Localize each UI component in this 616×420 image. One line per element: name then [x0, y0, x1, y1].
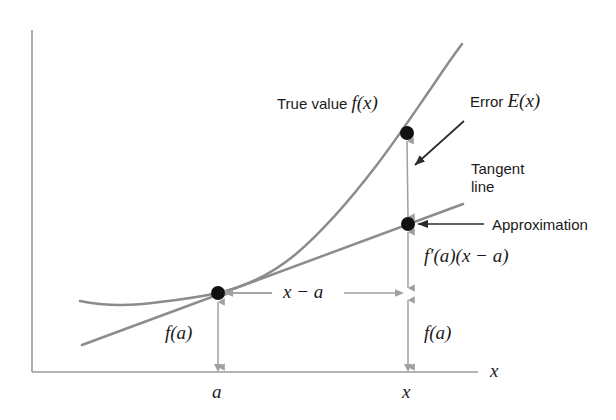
true-value-label: True value f(x)	[277, 92, 378, 114]
error-text: Error	[470, 93, 508, 110]
error-math: E(x)	[508, 90, 541, 111]
tangent-line-label-line2: line	[471, 178, 524, 196]
f-of-a-left-label: f(a)	[165, 322, 192, 344]
point-true-value	[400, 126, 414, 140]
function-curve	[80, 44, 462, 305]
error-callout-arrow	[415, 121, 464, 165]
error-measure-line	[407, 141, 408, 217]
x-axis-label: x	[490, 360, 498, 382]
tangent-line-label: Tangent line	[471, 160, 524, 195]
f-of-a-right-label: f(a)	[424, 322, 451, 344]
tangent-line-approximation-figure: True value f(x) Error E(x) Tangent line …	[0, 0, 616, 420]
axis-group	[32, 30, 478, 372]
true-value-math: f(x)	[351, 92, 377, 113]
figure-canvas	[0, 0, 616, 420]
tangent-line-label-line1: Tangent	[471, 160, 524, 178]
tick-marks	[214, 364, 412, 372]
point-tangency	[211, 286, 225, 300]
error-label: Error E(x)	[470, 90, 540, 112]
true-value-text: True value	[277, 95, 351, 112]
approximation-label: Approximation	[492, 216, 588, 234]
delta-x-label: x − a	[283, 281, 323, 303]
derivative-term-label: f′(a)(x − a)	[424, 245, 509, 267]
tick-label-x: x	[402, 381, 410, 403]
point-approximation	[401, 217, 415, 231]
tick-label-a: a	[212, 381, 222, 403]
